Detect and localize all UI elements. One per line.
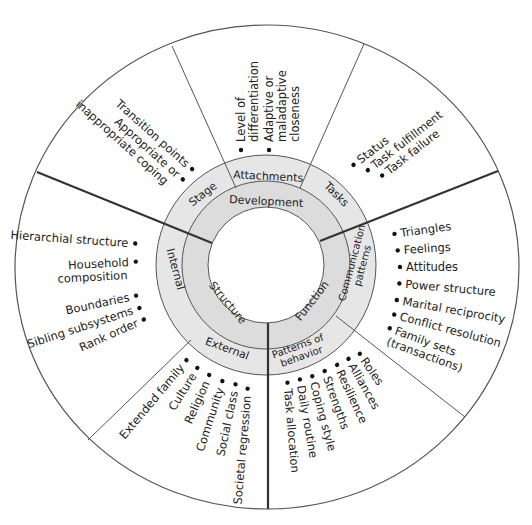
bullet-icon [398,265,402,269]
item-level-of-differentiation: Level of [234,96,248,142]
family-assessment-wheel: Development Structure Function Stage Att… [0,0,532,525]
bullet-icon [267,148,271,152]
svg-text:maladaptive: maladaptive [275,70,289,142]
bullet-icon [239,148,243,152]
svg-text:closeness: closeness [288,86,302,142]
svg-text:differentiation: differentiation [247,61,261,142]
item-adaptive-closeness: Adaptive or [262,75,276,142]
item-attitudes: Attitudes [406,260,458,274]
